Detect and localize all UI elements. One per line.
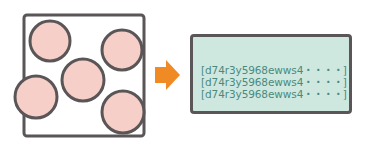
encoded-line: [d74r3y5968ewws4・・・・]: [201, 88, 349, 100]
particle: [102, 30, 142, 70]
encoded-line: [d74r3y5968ewws4・・・・]: [201, 76, 349, 88]
right-arrow-icon: [155, 60, 180, 90]
encoded-line: [d74r3y5968ewws4・・・・]: [201, 64, 349, 76]
particle: [30, 21, 70, 61]
particle: [102, 91, 144, 133]
particle: [15, 76, 57, 118]
particle: [62, 59, 104, 101]
encoded-output-box: [d74r3y5968ewws4・・・・] [d74r3y5968ewws4・・…: [190, 34, 352, 114]
